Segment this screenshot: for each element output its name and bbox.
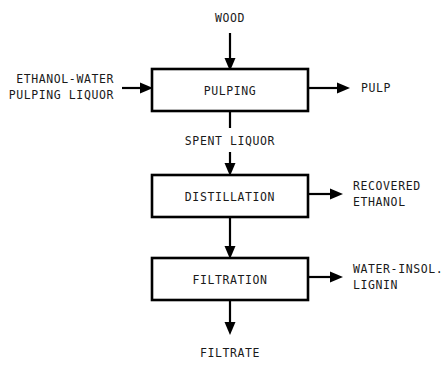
stream-label-lignin-line1: WATER-INSOL. bbox=[353, 262, 443, 276]
process-label-filtration: FILTRATION bbox=[192, 273, 267, 287]
stream-label-spent-liquor: SPENT LIQUOR bbox=[185, 134, 275, 148]
flow-diagram-canvas: WOOD ETHANOL-WATER PULPING LIQUOR PULPIN… bbox=[0, 0, 446, 375]
stream-label-recovered-ethanol-line1: RECOVERED bbox=[353, 179, 421, 193]
stream-label-filtrate: FILTRATE bbox=[200, 346, 260, 360]
stream-label-wood: WOOD bbox=[215, 11, 245, 25]
arrow-head-pulp bbox=[337, 83, 350, 94]
process-label-distillation: DISTILLATION bbox=[185, 190, 275, 204]
arrow-head-filtrate bbox=[225, 322, 236, 335]
stream-label-recovered-ethanol-line2: ETHANOL bbox=[353, 195, 406, 209]
stream-label-pulping-liquor-line1: ETHANOL-WATER bbox=[16, 72, 114, 86]
stream-label-lignin-line2: LIGNIN bbox=[353, 278, 398, 292]
stream-label-pulping-liquor-line2: PULPING LIQUOR bbox=[9, 88, 114, 102]
process-flow-diagram: WOOD ETHANOL-WATER PULPING LIQUOR PULPIN… bbox=[0, 0, 446, 375]
arrow-head-lignin bbox=[330, 272, 343, 283]
process-label-pulping: PULPING bbox=[204, 84, 257, 98]
arrow-head-recovered-ethanol bbox=[330, 189, 343, 200]
stream-label-pulp: PULP bbox=[361, 81, 391, 95]
